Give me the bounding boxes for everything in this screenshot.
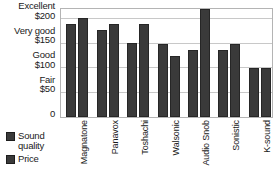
x-tick-label: Magnatone [79, 120, 89, 164]
bar-group [188, 9, 210, 117]
x-tick-label: Walsonic [171, 120, 181, 155]
y-tick-100: Good$100 [33, 50, 55, 69]
x-axis: MagnatonePanavoxToshachiWalsonicAudio Sn… [60, 118, 273, 185]
bar-sound-quality [127, 43, 137, 117]
y-tick-price: $50 [39, 84, 55, 94]
legend-label: Price [18, 154, 39, 164]
bar-price [230, 44, 240, 117]
bar-price [109, 24, 119, 117]
bar-group [127, 9, 149, 117]
bar-sound-quality [66, 24, 76, 117]
bar-group [218, 9, 240, 117]
bar-group [158, 9, 180, 117]
y-tick-200: Excellent$200 [18, 1, 55, 20]
legend-swatch-icon [6, 155, 15, 164]
bar-price [78, 18, 88, 117]
y-tick-price: 0 [50, 109, 55, 119]
bar-price [170, 56, 180, 117]
bar-price [261, 68, 271, 117]
legend-item: Sound quality [6, 131, 62, 151]
x-tick-label: Toshachi [140, 120, 150, 155]
bars-layer [61, 9, 272, 117]
y-tick-150: Very good$150 [14, 26, 55, 45]
bar-group [249, 9, 271, 117]
bar-group [97, 9, 119, 117]
legend-label: Sound quality [18, 131, 62, 151]
legend-item: Price [6, 154, 62, 164]
x-tick-label: Panavox [110, 120, 120, 154]
bar-sound-quality [188, 50, 198, 117]
y-tick-price: $150 [14, 35, 55, 45]
bar-group [66, 9, 88, 117]
y-tick-price: $100 [33, 60, 55, 70]
x-tick-label: Audio Snob [201, 120, 211, 166]
x-tick-label: K-sound [262, 120, 272, 153]
bar-price [200, 9, 210, 117]
bar-sound-quality [218, 50, 228, 117]
bar-sound-quality [158, 44, 168, 117]
bar-sound-quality [249, 68, 259, 117]
x-tick-label: Sonistic [231, 120, 241, 151]
legend: Sound qualityPrice [6, 131, 62, 167]
y-axis: Excellent$200Very good$150Good$100Fair$5… [0, 0, 58, 122]
y-tick-50: Fair$50 [39, 75, 55, 94]
y-tick-0: 0 [50, 109, 55, 119]
legend-swatch-icon [6, 132, 15, 141]
bar-chart: Excellent$200Very good$150Good$100Fair$5… [0, 0, 279, 185]
y-tick-price: $200 [18, 11, 55, 21]
bar-sound-quality [97, 30, 107, 117]
bar-price [139, 24, 149, 117]
plot-area [60, 8, 273, 118]
